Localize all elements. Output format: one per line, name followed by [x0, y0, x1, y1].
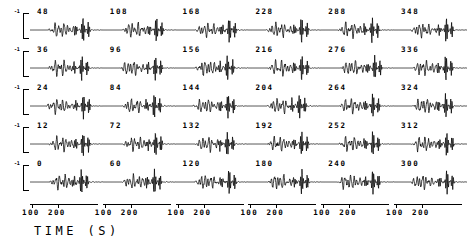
- seismogram-panel: 276: [321, 46, 394, 84]
- panel-grid: -148108168228288348-13696156216276336-12…: [0, 8, 467, 198]
- seismogram-panel: 36: [30, 46, 103, 84]
- panel-row: -13696156216276336: [0, 46, 467, 84]
- amplitude-scale-bar: [23, 51, 30, 77]
- seismogram-panel: 0: [30, 160, 103, 198]
- x-axis: 100200: [176, 204, 249, 216]
- axis-line: [176, 204, 244, 205]
- seismogram-panel: 216: [248, 46, 321, 84]
- amplitude-scale-bar: [23, 127, 30, 153]
- waveform-trace: [30, 166, 103, 198]
- axis-tick-label: 200: [412, 208, 430, 217]
- axis-line: [103, 204, 171, 205]
- seismogram-panel: 252: [321, 122, 394, 160]
- seismogram-figure: -148108168228288348-13696156216276336-12…: [0, 0, 467, 248]
- waveform-trace: [321, 52, 394, 84]
- panel-row: -1060120180240300: [0, 160, 467, 198]
- waveform-trace: [394, 14, 467, 46]
- waveform-trace: [103, 166, 176, 198]
- panel-strip: 3696156216276336: [30, 46, 467, 84]
- x-axis: 100200: [394, 204, 467, 216]
- waveform-trace: [248, 166, 321, 198]
- waveform-trace: [30, 128, 103, 160]
- seismogram-panel: 156: [176, 46, 249, 84]
- waveform-trace: [176, 52, 249, 84]
- seismogram-panel: 96: [103, 46, 176, 84]
- seismogram-panel: 24: [30, 84, 103, 122]
- axis-tick-label: 200: [48, 208, 66, 217]
- x-axis-row: 100200100200100200100200100200100200: [30, 204, 467, 216]
- x-axis-title: TIME (S): [34, 224, 120, 238]
- scale-bar-label: -1: [14, 161, 19, 166]
- axis-tick-label: 100: [386, 208, 404, 217]
- x-axis: 100200: [103, 204, 176, 216]
- waveform-trace: [321, 14, 394, 46]
- waveform-trace: [321, 128, 394, 160]
- waveform-trace: [30, 14, 103, 46]
- waveform-trace: [103, 128, 176, 160]
- x-axis: 100200: [248, 204, 321, 216]
- panel-row: -12484144204264324: [0, 84, 467, 122]
- waveform-trace: [176, 128, 249, 160]
- seismogram-panel: 120: [176, 160, 249, 198]
- seismogram-panel: 348: [394, 8, 467, 46]
- waveform-trace: [321, 90, 394, 122]
- axis-line: [394, 204, 462, 205]
- amplitude-scale-bar: [23, 13, 30, 39]
- seismogram-panel: 144: [176, 84, 249, 122]
- seismogram-panel: 12: [30, 122, 103, 160]
- waveform-trace: [394, 90, 467, 122]
- seismogram-panel: 264: [321, 84, 394, 122]
- waveform-trace: [248, 14, 321, 46]
- waveform-trace: [103, 52, 176, 84]
- panel-strip: 060120180240300: [30, 160, 467, 198]
- scale-bar-label: -1: [14, 9, 19, 14]
- waveform-trace: [103, 14, 176, 46]
- panel-row: -11272132192252312: [0, 122, 467, 160]
- axis-tick-label: 100: [168, 208, 186, 217]
- seismogram-panel: 336: [394, 46, 467, 84]
- amplitude-scale-bar: [23, 89, 30, 115]
- scale-bar-label: -1: [14, 47, 19, 52]
- waveform-trace: [30, 90, 103, 122]
- axis-tick-label: 100: [313, 208, 331, 217]
- axis-tick-label: 200: [266, 208, 284, 217]
- axis-tick-label: 100: [22, 208, 40, 217]
- panel-row: -148108168228288348: [0, 8, 467, 46]
- waveform-trace: [394, 166, 467, 198]
- seismogram-panel: 60: [103, 160, 176, 198]
- seismogram-panel: 84: [103, 84, 176, 122]
- waveform-trace: [176, 14, 249, 46]
- waveform-trace: [321, 166, 394, 198]
- scale-bar-label: -1: [14, 123, 19, 128]
- scale-bar-label: -1: [14, 85, 19, 90]
- seismogram-panel: 324: [394, 84, 467, 122]
- seismogram-panel: 300: [394, 160, 467, 198]
- axis-tick-label: 100: [240, 208, 258, 217]
- seismogram-panel: 312: [394, 122, 467, 160]
- seismogram-panel: 240: [321, 160, 394, 198]
- waveform-trace: [176, 90, 249, 122]
- waveform-trace: [248, 52, 321, 84]
- panel-strip: 48108168228288348: [30, 8, 467, 46]
- waveform-trace: [394, 52, 467, 84]
- seismogram-panel: 180: [248, 160, 321, 198]
- seismogram-panel: 72: [103, 122, 176, 160]
- seismogram-panel: 168: [176, 8, 249, 46]
- axis-line: [321, 204, 389, 205]
- amplitude-scale-bar: [23, 165, 30, 191]
- axis-tick-label: 200: [194, 208, 212, 217]
- waveform-trace: [103, 90, 176, 122]
- panel-strip: 2484144204264324: [30, 84, 467, 122]
- axis-tick-label: 200: [339, 208, 357, 217]
- axis-tick-label: 100: [95, 208, 113, 217]
- waveform-trace: [248, 128, 321, 160]
- seismogram-panel: 48: [30, 8, 103, 46]
- axis-line: [248, 204, 316, 205]
- seismogram-panel: 132: [176, 122, 249, 160]
- seismogram-panel: 192: [248, 122, 321, 160]
- seismogram-panel: 204: [248, 84, 321, 122]
- waveform-trace: [30, 52, 103, 84]
- seismogram-panel: 108: [103, 8, 176, 46]
- waveform-trace: [248, 90, 321, 122]
- x-axis: 100200: [321, 204, 394, 216]
